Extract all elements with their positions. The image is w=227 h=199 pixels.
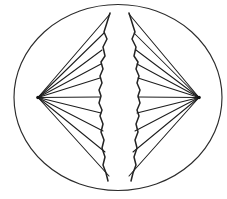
right-pole [197,96,201,100]
right-spindle-fiber-5 [138,97,199,98]
diagram-canvas [0,0,227,199]
cell-division-figure [0,0,227,199]
left-spindle-fiber-5 [38,97,100,98]
left-pole [36,96,40,100]
